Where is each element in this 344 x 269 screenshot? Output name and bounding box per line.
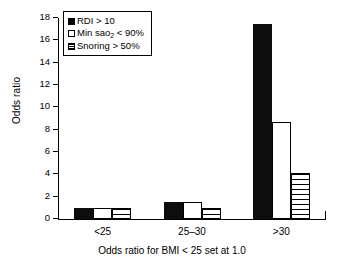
legend-label-snoring: Snoring > 50% [77, 40, 140, 52]
legend-label-sao2-post: < 90% [114, 27, 144, 38]
y-axis-tick-label: 2 [45, 190, 50, 201]
y-axis-tick-label: 14 [39, 56, 50, 67]
bar-rdi [74, 208, 93, 219]
legend-label-rdi: RDI > 10 [77, 15, 115, 27]
y-axis-tick-label: 8 [45, 123, 50, 134]
hatched-square-icon [68, 43, 75, 50]
legend-label-sao2-sub: 2 [110, 32, 114, 39]
bar-snoring [112, 208, 131, 219]
legend-item-sao2: Min sao2 < 90% [68, 27, 144, 40]
y-axis-tick-label: 12 [39, 78, 50, 89]
y-axis-title: Odds ratio [11, 61, 22, 141]
x-axis-tick-label: 25–30 [178, 226, 206, 237]
y-axis-tick-label: 6 [45, 145, 50, 156]
y-axis-tick-label: 4 [45, 167, 50, 178]
bar-rdi [253, 24, 272, 219]
y-axis-tick-label: 16 [39, 33, 50, 44]
x-axis-tick-label: <25 [94, 226, 111, 237]
bar-sao2 [272, 122, 291, 219]
bar-chart-figure: Odds ratio 024681012141618 <2525–30>30 O… [0, 0, 344, 269]
x-axis-title: Odds ratio for BMI < 25 set at 1.0 [0, 245, 344, 256]
open-square-icon [68, 30, 75, 37]
bar-sao2 [93, 208, 112, 219]
y-axis-tick-label: 0 [45, 212, 50, 223]
legend-label-sao2-pre: Min sao [77, 27, 110, 38]
legend-item-rdi: RDI > 10 [68, 15, 144, 27]
x-axis-tick-label: >30 [273, 226, 290, 237]
bar-snoring [291, 173, 310, 219]
bar-rdi [164, 202, 183, 219]
legend: RDI > 10 Min sao2 < 90% Snoring > 50% [63, 11, 152, 56]
bar-sao2 [183, 202, 202, 219]
solid-black-square-icon [68, 18, 75, 25]
y-axis-tick-label: 18 [39, 11, 50, 22]
legend-item-snoring: Snoring > 50% [68, 40, 144, 52]
legend-label-sao2: Min sao2 < 90% [77, 27, 144, 40]
y-axis-tick-label: 10 [39, 100, 50, 111]
bar-snoring [202, 208, 221, 219]
